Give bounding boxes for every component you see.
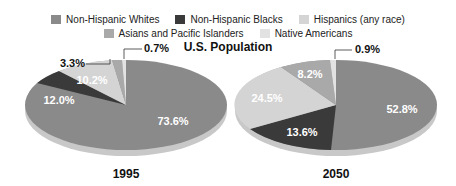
label-1995-blacks: 12.0%	[43, 94, 74, 106]
label-1995-whites: 73.6%	[157, 115, 188, 127]
year-label-1995: 1995	[96, 167, 156, 181]
year-label-2050: 2050	[306, 167, 366, 181]
label-2050-hispanics: 24.5%	[251, 92, 282, 104]
pie-charts: 3.3% 0.7% 10.2% 12.0% 73.6% 0.9% 8.2% 24…	[0, 0, 456, 186]
label-2050-whites: 52.8%	[386, 103, 417, 115]
label-1995-asians: 3.3%	[60, 57, 85, 69]
label-2050-asians: 8.2%	[297, 68, 322, 80]
pie-1995	[25, 60, 227, 156]
label-2050-native: 0.9%	[355, 43, 380, 55]
label-2050-blacks: 13.6%	[286, 126, 317, 138]
label-1995-native: 0.7%	[144, 42, 169, 54]
label-1995-hispanics: 10.2%	[76, 74, 107, 86]
